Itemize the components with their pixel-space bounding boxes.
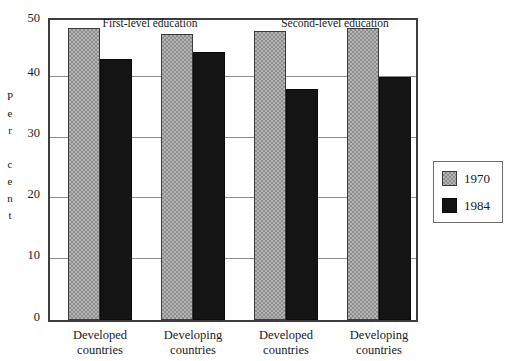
y-axis-title-letter: P: [3, 88, 17, 105]
y-tick-label-30: 30: [14, 127, 40, 140]
bar-group3-1970: [347, 28, 379, 320]
y-tick-label-0: 0: [14, 311, 40, 324]
category-label-line2: countries: [236, 343, 336, 358]
category-label-line1: Developing: [143, 328, 243, 343]
legend-label-1970: 1970: [464, 172, 490, 185]
plot-area: [48, 18, 418, 322]
bar-group1-1984: [193, 52, 225, 320]
category-label-line1: Developing: [329, 328, 429, 343]
y-axis-title-letter: c: [3, 156, 17, 173]
category-label-line2: countries: [50, 343, 150, 358]
legend-label-1984: 1984: [464, 199, 490, 212]
legend-swatch-1970-icon: [442, 171, 457, 186]
y-tick-label-10: 10: [14, 249, 40, 262]
legend-swatch-1984-icon: [442, 198, 457, 213]
y-axis-title-letter: t: [3, 207, 17, 224]
group-title-first-level: First-level education: [70, 17, 230, 29]
category-label-line2: countries: [329, 343, 429, 358]
category-label-0: Developed countries: [50, 328, 150, 358]
y-axis-title: P e r c e n t: [3, 88, 17, 224]
category-label-2: Developed countries: [236, 328, 336, 358]
y-tick-label-20: 20: [14, 188, 40, 201]
y-axis-title-letter: e: [3, 105, 17, 122]
plot-inner: [50, 20, 416, 320]
category-label-1: Developing countries: [143, 328, 243, 358]
legend-item-1970[interactable]: 1970: [442, 169, 495, 188]
bar-chart: P e r c e n t 50 40 30 20 10 0: [0, 0, 516, 361]
y-axis-title-letter-gap: [3, 139, 17, 156]
category-label-3: Developing countries: [329, 328, 429, 358]
legend: 1970 1984: [433, 161, 503, 223]
bar-group0-1970: [68, 28, 100, 320]
bar-group3-1984: [379, 77, 411, 320]
category-label-line1: Developed: [50, 328, 150, 343]
legend-item-1984[interactable]: 1984: [442, 196, 495, 215]
category-label-line1: Developed: [236, 328, 336, 343]
y-tick-label-40: 40: [14, 66, 40, 79]
bar-group1-1970: [161, 34, 193, 320]
y-tick-label-50: 50: [14, 12, 40, 25]
bar-group0-1984: [100, 59, 132, 320]
group-title-second-level: Second-level education: [255, 17, 415, 29]
bar-group2-1970: [254, 31, 286, 320]
category-label-line2: countries: [143, 343, 243, 358]
bar-group2-1984: [286, 89, 318, 320]
